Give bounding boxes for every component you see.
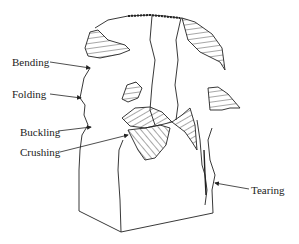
label-bending: Bending xyxy=(12,56,49,68)
fracture-flaps xyxy=(85,18,240,160)
arrow-tearing xyxy=(215,183,249,189)
label-crushing: Crushing xyxy=(20,146,60,158)
arrow-bending xyxy=(50,62,90,68)
arrow-folding xyxy=(50,94,81,98)
label-tearing: Tearing xyxy=(251,184,284,196)
arrow-crushing xyxy=(60,135,128,152)
failure-modes-figure: Bending Folding Buckling Crushing Tearin… xyxy=(0,0,299,244)
label-folding: Folding xyxy=(12,88,46,100)
label-buckling: Buckling xyxy=(20,126,60,138)
column-drawing xyxy=(0,0,299,244)
